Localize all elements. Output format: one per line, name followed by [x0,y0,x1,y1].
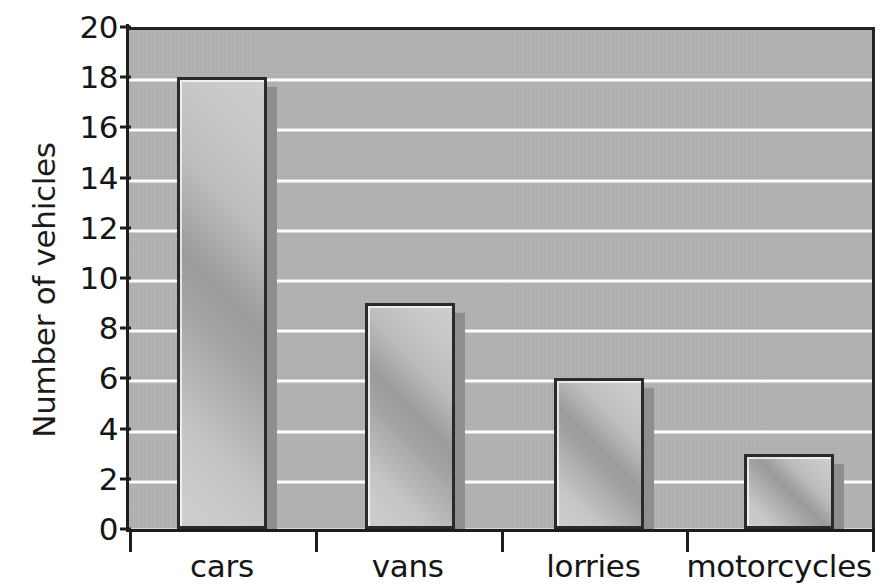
y-axis-tick-mark [120,427,131,430]
bar-cars [177,77,267,529]
x-axis-ticklabel: cars [129,551,315,582]
x-axis-tick-mark [315,532,318,552]
y-axis-tick-mark [120,26,131,29]
y-axis-tick-mark [120,327,131,330]
y-axis-ticklabel: 4 [36,413,118,444]
y-axis-ticklabel: 6 [36,363,118,394]
bar-motorcycles [744,454,834,529]
y-axis-ticklabel: 10 [36,263,118,294]
y-axis-ticklabel: 20 [36,12,118,43]
y-axis-tick-mark [120,528,131,531]
y-axis-ticklabel: 14 [36,162,118,193]
bar-highlight [368,306,452,526]
x-axis-ticklabel: motorcycles [686,551,872,582]
y-axis-ticklabel: 18 [36,62,118,93]
bar-chart: Number of vehicles 02468101214161820 car… [0,0,884,588]
y-axis-ticklabel: 16 [36,112,118,143]
x-axis-tick-mark [501,532,504,552]
y-axis-tick-mark [120,377,131,380]
y-axis-ticklabel: 12 [36,212,118,243]
y-axis-tick-mark [120,226,131,229]
bar-highlight [747,457,831,526]
bar-highlight [180,80,264,526]
bar-highlight [557,381,641,526]
y-axis-ticklabels: 02468101214161820 [36,0,118,588]
y-axis-ticklabel: 2 [36,463,118,494]
y-axis-tick-mark [120,76,131,79]
x-axis-tick-mark [872,532,875,552]
x-axis-ticklabel: vans [315,551,501,582]
y-axis-tick-mark [120,126,131,129]
x-axis-tick-mark [129,532,132,552]
y-axis-tick-mark [120,477,131,480]
y-axis-tick-mark [120,176,131,179]
y-axis-tick-mark [120,277,131,280]
x-axis-ticklabel: lorries [501,551,687,582]
y-axis-ticklabel: 0 [36,514,118,545]
bar-vans [365,303,455,529]
y-axis-ticklabel: 8 [36,313,118,344]
bar-lorries [554,378,644,529]
